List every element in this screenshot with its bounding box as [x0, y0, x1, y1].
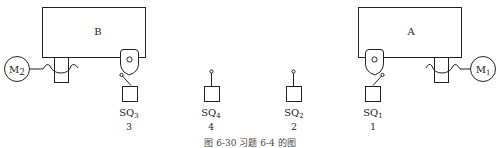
motor-m2: M2	[5, 57, 30, 82]
table-a-assembly: A M1	[359, 8, 496, 86]
sq1-body	[366, 87, 381, 102]
limit-switch-sq3: SQ3 3	[119, 87, 139, 133]
table-a-label: A	[406, 26, 415, 37]
motor-m1: M1	[471, 57, 496, 82]
sq2-position: 2	[291, 122, 297, 132]
table-b-assembly: B M2	[5, 8, 146, 86]
sq3-body	[123, 87, 138, 102]
table-b-striker	[120, 50, 139, 86]
table-b-label: B	[94, 26, 101, 37]
diagram-canvas: B M2 SQ3 3 SQ4 4	[0, 0, 499, 148]
figure-caption: 图 6-30 习题 6-4 的图	[204, 137, 295, 148]
motor-m1-label: M1	[476, 64, 491, 77]
table-b-coupling	[30, 58, 78, 83]
sq2-body	[287, 87, 302, 102]
sq3-position: 3	[126, 122, 132, 132]
sq4-position: 4	[208, 122, 214, 132]
limit-switch-sq4: SQ4 4	[201, 70, 221, 132]
limit-switch-sq1: SQ1 1	[363, 87, 383, 133]
sq4-body	[205, 87, 220, 102]
sq2-label: SQ2	[284, 107, 304, 120]
table-a-coupling	[426, 58, 470, 83]
table-a-striker	[366, 50, 385, 86]
motor-m2-label: M2	[9, 64, 25, 77]
sq1-label: SQ1	[363, 107, 383, 120]
sq4-label: SQ4	[201, 107, 221, 120]
sq3-label: SQ3	[119, 107, 139, 120]
limit-switch-sq2: SQ2 2	[284, 70, 304, 132]
sq1-position: 1	[370, 122, 376, 132]
